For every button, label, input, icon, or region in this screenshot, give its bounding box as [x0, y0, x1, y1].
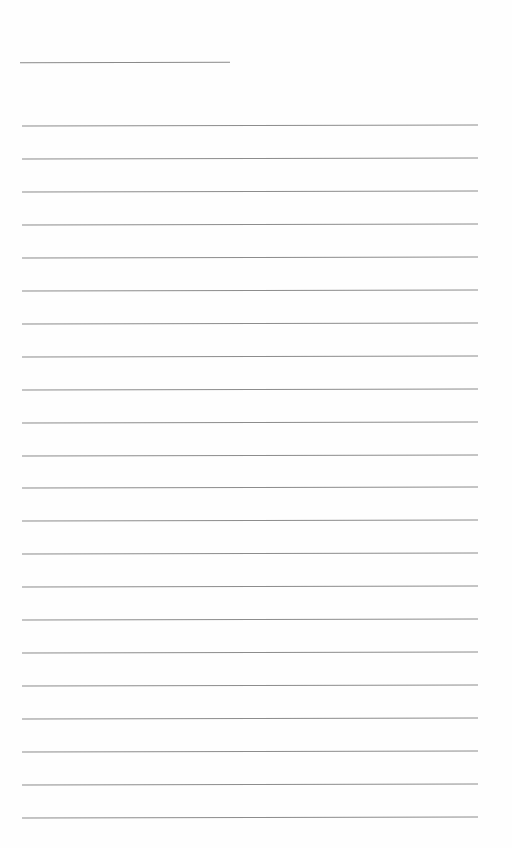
ruled-line: [22, 520, 478, 522]
ruled-line: [22, 553, 478, 555]
ruled-line: [22, 817, 478, 819]
ruled-line: [22, 191, 478, 193]
ruled-line: [22, 125, 478, 127]
header-line: [20, 62, 230, 63]
ruled-line: [22, 455, 478, 457]
ruled-line: [22, 652, 478, 654]
ruled-line: [22, 751, 478, 753]
ruled-line: [22, 586, 478, 588]
ruled-line: [22, 389, 478, 391]
notepaper-page: [0, 0, 512, 848]
ruled-line: [22, 685, 478, 687]
ruled-line: [22, 487, 478, 489]
ruled-line: [22, 356, 478, 358]
ruled-line: [22, 290, 478, 292]
ruled-line: [22, 224, 478, 226]
ruled-line: [22, 619, 478, 621]
ruled-line: [22, 257, 478, 259]
ruled-line: [22, 718, 478, 720]
ruled-line: [22, 323, 478, 325]
ruled-line: [22, 158, 478, 160]
ruled-line: [22, 784, 478, 786]
ruled-line: [22, 422, 478, 424]
